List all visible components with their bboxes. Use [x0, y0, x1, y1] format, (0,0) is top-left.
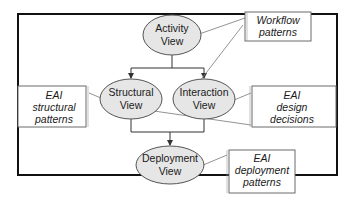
node-structural-line2: View	[120, 99, 143, 111]
note-eai-design-line2: design	[277, 101, 308, 113]
note-eai-design-line1: EAI	[284, 89, 301, 101]
note-eai-deployment-line3: patterns	[242, 176, 282, 188]
note-workflow-line2: patterns	[258, 26, 298, 38]
node-deployment-view: Deployment View	[136, 146, 204, 184]
node-activity-line1: Activity	[155, 22, 189, 34]
node-structural-line1: Structural	[109, 86, 154, 98]
workflow-to-interaction-line	[196, 25, 243, 86]
node-deployment-line1: Deployment	[142, 152, 198, 164]
node-deployment-line2: View	[159, 165, 182, 177]
note-workflow-patterns: Workflow patterns	[245, 12, 311, 41]
views-to-deployment-connector	[131, 119, 204, 145]
note-eai-structural-line1: EAI	[46, 89, 63, 101]
node-interaction-view: Interaction View	[173, 79, 235, 119]
node-interaction-line1: Interaction	[179, 86, 228, 98]
note-eai-design-decisions: EAI design decisions	[250, 86, 336, 127]
note-eai-structural-patterns: EAI structural patterns	[18, 86, 88, 127]
activity-to-views-connector	[131, 55, 204, 78]
node-interaction-line2: View	[193, 99, 216, 111]
diagram-canvas: Workflow patterns EAI structural pattern…	[0, 0, 352, 207]
note-eai-design-line3: decisions	[270, 113, 315, 125]
note-eai-structural-line2: structural	[32, 101, 76, 113]
note-eai-deployment-line1: EAI	[254, 152, 271, 164]
node-activity-view: Activity View	[143, 15, 201, 55]
note-eai-structural-line3: patterns	[34, 113, 74, 125]
node-structural-view: Structural View	[100, 79, 162, 119]
node-activity-line2: View	[161, 35, 184, 47]
note-workflow-line1: Workflow	[256, 14, 301, 26]
note-eai-deployment-patterns: EAI deployment patterns	[227, 150, 295, 193]
note-eai-deployment-line2: deployment	[235, 164, 290, 176]
